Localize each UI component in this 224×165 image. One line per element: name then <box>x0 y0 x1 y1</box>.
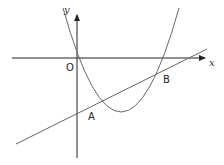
origin-label: O <box>66 62 74 73</box>
point-b-label: B <box>163 74 170 85</box>
graph-svg: y x O A B <box>0 0 224 165</box>
parabola-curve <box>63 8 179 112</box>
y-axis-label: y <box>63 4 70 15</box>
x-axis-label: x <box>209 57 215 68</box>
diagram-canvas: y x O A B <box>0 0 224 165</box>
point-a-label: A <box>88 111 95 122</box>
straight-line <box>16 49 207 144</box>
